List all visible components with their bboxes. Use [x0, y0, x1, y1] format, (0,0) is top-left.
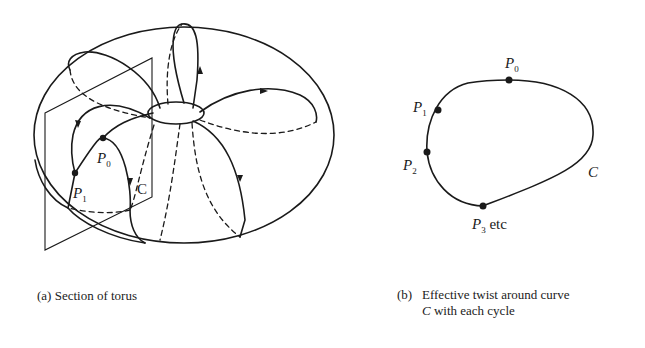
label-p1: P1 — [72, 185, 87, 204]
caption-b-line2: with each cycle — [431, 303, 515, 318]
flow-loop-2 — [173, 24, 198, 108]
torus-outline — [34, 27, 334, 243]
flow-loop-1 — [69, 52, 160, 108]
curve-c — [427, 80, 593, 206]
hidden-paths — [68, 24, 316, 240]
caption-b: (b)Effective twist around curve C with e… — [397, 287, 569, 319]
point-b-p3 — [480, 203, 487, 210]
caption-b-line1: Effective twist around curve — [422, 287, 569, 302]
label-b-p3: P3 etc — [471, 216, 507, 235]
label-b-p0: P0 — [504, 55, 519, 74]
torus-hole — [148, 102, 204, 124]
figure-b-curve — [424, 77, 594, 210]
point-b-p1 — [435, 107, 442, 114]
flow-loop-3 — [200, 89, 317, 122]
point-b-p0 — [506, 77, 513, 84]
point-p1 — [72, 170, 78, 176]
figure-a-torus — [34, 24, 334, 250]
label-p0: P0 — [96, 150, 111, 169]
caption-a: (a) Section of torus — [37, 288, 137, 304]
point-b-p2 — [424, 149, 431, 156]
label-b-p2: P2 — [402, 157, 417, 176]
label-c: C — [137, 181, 147, 197]
flow-arrows — [75, 66, 268, 186]
flow-loop-6 — [75, 138, 145, 243]
label-b-p1: P1 — [412, 99, 427, 118]
point-p0 — [100, 135, 106, 141]
flow-loop-5 — [72, 105, 150, 173]
caption-b-c: C — [422, 303, 431, 318]
caption-b-tag: (b) — [397, 287, 422, 303]
label-b-c: C — [588, 164, 599, 180]
